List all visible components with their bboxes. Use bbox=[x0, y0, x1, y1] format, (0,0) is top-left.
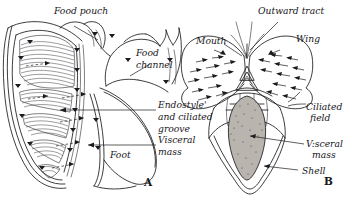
leader-shell bbox=[264, 164, 298, 170]
label-ciliated-field-line2: field bbox=[309, 112, 331, 123]
visceral-mass-b bbox=[228, 96, 265, 180]
gill-plate bbox=[20, 35, 75, 88]
label-endostyle-line3: groove bbox=[158, 123, 191, 134]
label-foot: Foot bbox=[109, 149, 131, 160]
gill-plate bbox=[30, 140, 66, 163]
gill-plate bbox=[23, 114, 70, 138]
foot-outline bbox=[90, 88, 156, 189]
label-ciliated-field-line1: Ciliated bbox=[306, 101, 342, 112]
label-panel-b: B bbox=[324, 175, 333, 187]
label-shell: Shell bbox=[302, 165, 326, 176]
label-visceral-mass-b-line1: V:sceral bbox=[306, 138, 343, 149]
label-panel-a: A bbox=[143, 176, 153, 188]
label-outward-tract: Outward tract bbox=[258, 5, 324, 16]
label-food-pouch: Food pouch bbox=[53, 5, 108, 16]
current-arrows-right-wing bbox=[258, 50, 306, 99]
label-visceral-mass-a-line1: Visceral bbox=[158, 134, 196, 145]
label-visceral-mass-b-line2: mass bbox=[312, 149, 336, 160]
label-food-channel-line1: Food bbox=[135, 47, 159, 58]
leader-wing bbox=[288, 92, 300, 102]
leader-ciliated-field bbox=[288, 104, 306, 106]
leader-outward-tract bbox=[250, 22, 278, 50]
illustration-figure: Food pouch Food channel Endostyle' and c… bbox=[0, 0, 352, 204]
label-wing: Wing bbox=[296, 33, 320, 44]
label-mouth: Mouth bbox=[195, 35, 227, 46]
label-endostyle-line2: and ciliated bbox=[158, 111, 213, 122]
label-visceral-mass-a-line2: mass bbox=[158, 146, 182, 157]
mouth-apex bbox=[231, 22, 264, 90]
label-food-channel-line2: channel bbox=[136, 59, 173, 70]
